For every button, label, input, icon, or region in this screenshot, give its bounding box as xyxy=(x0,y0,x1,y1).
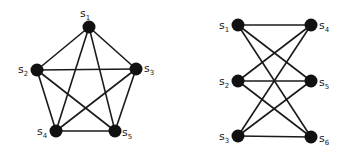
node-label-s2: s2 xyxy=(219,75,229,90)
node-label-s4: s4 xyxy=(319,19,330,34)
edge-s1-s4 xyxy=(56,27,89,131)
node-label-s2: s2 xyxy=(18,63,28,78)
node-label-s3: s3 xyxy=(219,130,229,145)
edge-s1-s3 xyxy=(89,27,136,69)
node-label-s4: s4 xyxy=(37,125,48,140)
edge-s3-s4 xyxy=(56,69,136,131)
node-s4 xyxy=(50,125,63,138)
node-s3 xyxy=(232,130,245,143)
edge-s2-s3 xyxy=(37,69,136,70)
node-s2 xyxy=(232,75,245,88)
complete-graph-k5: s1s2s3s4s5 xyxy=(18,7,154,141)
node-s4 xyxy=(305,19,318,32)
complete-bipartite-graph-k33: s1s2s3s4s5s6 xyxy=(219,19,330,148)
node-label-s6: s6 xyxy=(319,132,330,147)
edge-s3-s5 xyxy=(115,69,136,131)
node-label-s1: s1 xyxy=(80,7,90,22)
node-label-s1: s1 xyxy=(219,19,229,34)
node-label-s5: s5 xyxy=(122,126,132,141)
node-s6 xyxy=(305,131,318,144)
graph-diagram: s1s2s3s4s5 s1s2s3s4s5s6 xyxy=(0,0,344,153)
edge-s1-s2 xyxy=(37,27,89,70)
edge-s1-s5 xyxy=(89,27,115,131)
edge-s2-s4 xyxy=(37,70,56,131)
edge-s2-s5 xyxy=(37,70,115,131)
node-s5 xyxy=(305,75,318,88)
node-s1 xyxy=(232,19,245,32)
node-label-s3: s3 xyxy=(144,62,154,77)
node-s3 xyxy=(130,63,143,76)
node-s5 xyxy=(109,125,122,138)
node-s2 xyxy=(31,64,44,77)
node-s1 xyxy=(83,21,96,34)
node-label-s5: s5 xyxy=(319,76,329,91)
edge-s3-s6 xyxy=(238,136,311,137)
